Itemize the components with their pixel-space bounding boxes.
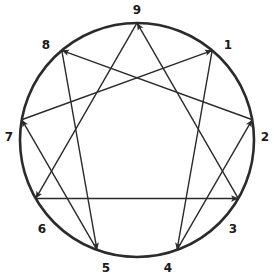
node-label-9: 9 (133, 4, 141, 16)
node-label-6: 6 (38, 223, 46, 235)
node-label-2: 2 (261, 131, 269, 143)
triangle-edges (36, 23, 238, 198)
edge-9-to-6 (36, 23, 137, 198)
node-label-8: 8 (42, 39, 50, 51)
node-label-4: 4 (164, 262, 172, 274)
hexad-edges (22, 51, 252, 250)
node-label-5: 5 (102, 262, 110, 274)
node-label-3: 3 (229, 223, 237, 235)
node-label-7: 7 (5, 131, 13, 143)
outer-circle (20, 23, 254, 257)
node-label-1: 1 (224, 39, 232, 51)
enneagram-diagram: 9 1 2 3 4 5 6 7 8 (0, 0, 274, 278)
